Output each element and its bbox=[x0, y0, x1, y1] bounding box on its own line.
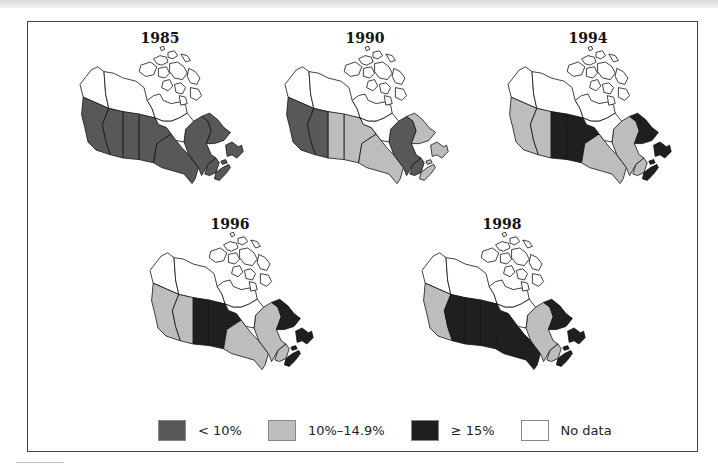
arctic-island bbox=[384, 96, 392, 106]
arctic-island bbox=[598, 62, 616, 80]
panel-year-label: 1998 bbox=[402, 216, 602, 232]
arctic-island bbox=[529, 254, 542, 270]
arctic-island bbox=[392, 68, 405, 84]
arctic-island bbox=[170, 62, 188, 80]
panel-year-label: 1990 bbox=[265, 30, 465, 46]
arctic-island bbox=[230, 232, 235, 237]
region-pe bbox=[426, 160, 432, 165]
legend-label: ≥ 15% bbox=[451, 423, 495, 438]
arctic-island bbox=[344, 62, 362, 76]
region-pe bbox=[221, 160, 227, 165]
arctic-island bbox=[386, 54, 396, 62]
arctic-island bbox=[181, 54, 191, 62]
arctic-island bbox=[367, 80, 378, 91]
arctic-island bbox=[251, 240, 261, 248]
arctic-island bbox=[602, 83, 613, 94]
arctic-island bbox=[139, 62, 157, 76]
map-panel-1985: 1985 bbox=[60, 30, 260, 180]
region-pe bbox=[291, 346, 297, 351]
arctic-island bbox=[607, 96, 615, 106]
region-nf bbox=[431, 142, 449, 158]
legend-swatch-lt10 bbox=[158, 420, 186, 441]
arctic-island bbox=[365, 46, 370, 51]
footnote-rule bbox=[16, 462, 64, 463]
arctic-island bbox=[168, 51, 178, 59]
legend-swatch-10to14_9 bbox=[268, 420, 296, 441]
arctic-island bbox=[373, 51, 383, 59]
arctic-island bbox=[395, 88, 406, 101]
panel-year-label: 1994 bbox=[488, 30, 688, 46]
legend-item-ge15: ≥ 15% bbox=[411, 420, 521, 441]
arctic-island bbox=[532, 274, 543, 287]
region-pe bbox=[649, 160, 655, 165]
arctic-island bbox=[160, 46, 165, 51]
arctic-island bbox=[240, 248, 258, 266]
arctic-island bbox=[481, 248, 499, 262]
region-nf bbox=[226, 142, 244, 158]
map-panel-1990: 1990 bbox=[265, 30, 465, 180]
arctic-island bbox=[359, 56, 373, 66]
legend-label: 10%–14.9% bbox=[308, 423, 385, 438]
legend-label: < 10% bbox=[198, 423, 242, 438]
arctic-island bbox=[162, 80, 173, 91]
canada-map bbox=[265, 46, 465, 186]
arctic-island bbox=[154, 56, 168, 66]
arctic-island bbox=[510, 237, 520, 245]
legend-swatch-nodata bbox=[521, 420, 549, 441]
arctic-island bbox=[504, 266, 515, 277]
arctic-island bbox=[260, 274, 271, 287]
arctic-island bbox=[586, 67, 597, 78]
map-panel-1998: 1998 bbox=[402, 216, 602, 366]
arctic-island bbox=[228, 253, 239, 264]
arctic-island bbox=[588, 46, 593, 51]
arctic-island bbox=[523, 240, 533, 248]
arctic-island bbox=[363, 67, 374, 78]
region-sk bbox=[328, 112, 344, 160]
arctic-island bbox=[187, 68, 200, 84]
top-shadow-band bbox=[0, 0, 718, 8]
arctic-island bbox=[257, 254, 270, 270]
arctic-island bbox=[618, 88, 629, 101]
arctic-island bbox=[615, 68, 628, 84]
region-sk bbox=[551, 112, 567, 160]
arctic-island bbox=[496, 242, 510, 252]
arctic-island bbox=[174, 83, 185, 94]
canada-map bbox=[60, 46, 260, 186]
arctic-island bbox=[609, 54, 619, 62]
region-nf bbox=[654, 142, 672, 158]
region-nf bbox=[568, 328, 586, 344]
canada-map bbox=[130, 232, 330, 372]
arctic-island bbox=[238, 237, 248, 245]
region-sk bbox=[193, 298, 209, 346]
canada-map bbox=[488, 46, 688, 186]
arctic-island bbox=[567, 62, 585, 76]
region-pe bbox=[563, 346, 569, 351]
arctic-island bbox=[179, 96, 187, 106]
arctic-island bbox=[379, 83, 390, 94]
arctic-island bbox=[500, 253, 511, 264]
arctic-island bbox=[158, 67, 169, 78]
arctic-island bbox=[596, 51, 606, 59]
arctic-island bbox=[582, 56, 596, 66]
arctic-island bbox=[512, 248, 530, 266]
region-sk bbox=[123, 112, 139, 160]
arctic-island bbox=[190, 88, 201, 101]
arctic-island bbox=[516, 269, 527, 280]
arctic-island bbox=[521, 282, 529, 292]
legend: < 10% 10%–14.9% ≥ 15% No data bbox=[158, 419, 638, 441]
map-panel-1996: 1996 bbox=[130, 216, 330, 366]
map-panel-1994: 1994 bbox=[488, 30, 688, 180]
arctic-island bbox=[249, 282, 257, 292]
legend-label: No data bbox=[561, 423, 612, 438]
legend-swatch-ge15 bbox=[411, 420, 439, 441]
legend-item-lt10: < 10% bbox=[158, 420, 268, 441]
arctic-island bbox=[244, 269, 255, 280]
region-nf bbox=[296, 328, 314, 344]
arctic-island bbox=[232, 266, 243, 277]
panel-year-label: 1996 bbox=[130, 216, 330, 232]
region-sk bbox=[465, 298, 481, 346]
arctic-island bbox=[502, 232, 507, 237]
legend-item-nodata: No data bbox=[521, 420, 638, 441]
canada-map bbox=[402, 232, 602, 372]
legend-item-10to14_9: 10%–14.9% bbox=[268, 420, 411, 441]
